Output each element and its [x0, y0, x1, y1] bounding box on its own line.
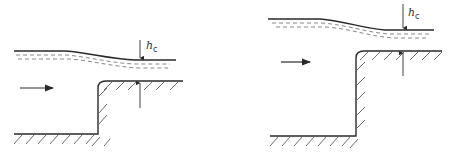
right-crest-hatching: [360, 52, 442, 60]
left-bed-hatching: [14, 135, 110, 146]
right-bed-hatching: [270, 137, 358, 148]
left-hc-label: hc: [146, 39, 158, 54]
right-free-surface: [268, 19, 434, 30]
left-crest-hatching: [104, 82, 178, 90]
left-free-surface: [14, 51, 176, 60]
right-panel: hc: [268, 4, 442, 148]
right-channel-bed: [270, 51, 442, 136]
left-channel-bed: [14, 81, 183, 134]
right-hc-label: hc: [408, 6, 420, 21]
left-panel: hc: [14, 39, 183, 146]
right-dashed-line-2: [276, 27, 428, 38]
left-step-hatching: [99, 88, 107, 124]
right-step-hatching: [357, 62, 365, 128]
